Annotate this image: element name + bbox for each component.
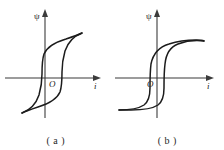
y-axis-b [154,9,160,118]
hysteresis-figure-pair: O ψ i ( a ) [0,0,223,150]
hysteresis-descending-branch-b [119,41,204,110]
panel-b-plot: O ψ i [112,0,224,126]
panel-caption-b: ( b ) [112,135,224,146]
x-axis-label-a: i [94,81,97,91]
origin-label-b: O [147,79,154,89]
x-axis-label-b: i [207,81,210,91]
figure-panel-b: O ψ i ( b ) [112,0,224,150]
y-axis-label-b: ψ [146,11,152,21]
origin-label-a: O [49,79,56,89]
panel-a-plot: O ψ i [0,0,112,126]
panel-caption-a: ( a ) [0,135,112,146]
figure-panel-a: O ψ i ( a ) [0,0,112,150]
y-axis-label-a: ψ [34,11,40,21]
